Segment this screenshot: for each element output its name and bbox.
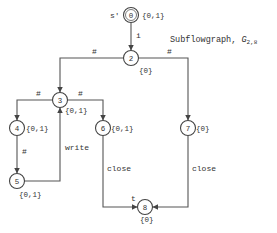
edge-label-2-3: # <box>92 47 97 56</box>
subflowgraph-diagram: Subflowgraph, G2,8 i # # # # # write clo… <box>0 0 277 233</box>
svg-text:0: 0 <box>129 12 134 20</box>
node-4: 4 <box>10 121 25 136</box>
edge-5-3 <box>25 108 60 181</box>
edge-label-7-8: close <box>192 164 216 173</box>
edge-label-4-5: # <box>22 147 27 156</box>
end-label: t <box>131 194 136 203</box>
edge-label-6-8: close <box>107 164 131 173</box>
node-7: 7 <box>181 121 196 136</box>
node-5: 5 <box>10 174 25 189</box>
edge-label-5-3: write <box>65 143 89 152</box>
diagram-title: Subflowgraph, G2,8 <box>170 35 258 46</box>
node-0-set: {0,1} <box>142 12 165 20</box>
svg-text:2: 2 <box>129 55 134 63</box>
svg-text:5: 5 <box>15 178 20 186</box>
edge-label-3-4: # <box>36 89 41 98</box>
edge-label-2-7: # <box>167 47 172 56</box>
node-4-set: {0,1} <box>26 125 49 133</box>
svg-text:6: 6 <box>101 125 106 133</box>
svg-text:3: 3 <box>58 97 63 105</box>
node-2: 2 <box>124 51 139 66</box>
node-8-set: {0} <box>140 216 154 224</box>
edge-2-3 <box>60 58 123 92</box>
svg-text:8: 8 <box>143 204 148 212</box>
node-5-set: {0,1} <box>19 191 42 199</box>
node-6-set: {0,1} <box>111 125 134 133</box>
node-8: 8 <box>138 200 153 215</box>
edge-label-0-2: i <box>136 31 141 40</box>
edge-label-3-6: # <box>78 89 83 98</box>
node-0: 0 <box>124 8 139 23</box>
svg-text:4: 4 <box>15 125 20 133</box>
node-3-set: {0,1} <box>65 107 88 115</box>
edge-3-4 <box>17 100 52 120</box>
svg-text:7: 7 <box>186 125 191 133</box>
node-3: 3 <box>53 93 68 108</box>
edge-7-8 <box>153 136 188 207</box>
node-6: 6 <box>96 121 111 136</box>
node-7-set: {0} <box>196 125 210 133</box>
node-2-set: {0} <box>139 67 153 75</box>
start-label: s' <box>110 11 120 20</box>
